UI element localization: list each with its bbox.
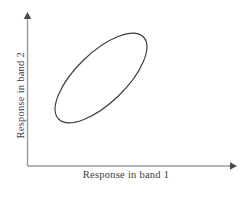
axes-group xyxy=(24,12,237,170)
x-axis-arrowhead xyxy=(230,162,237,170)
y-axis-arrowhead xyxy=(24,12,32,19)
response-cluster-ellipse xyxy=(41,19,161,137)
data-cluster-group xyxy=(41,19,161,137)
figure-canvas: Response in band 1 Response in band 2 xyxy=(0,0,244,198)
x-axis-label: Response in band 1 xyxy=(0,170,244,181)
y-axis-label: Response in band 2 xyxy=(16,30,27,160)
